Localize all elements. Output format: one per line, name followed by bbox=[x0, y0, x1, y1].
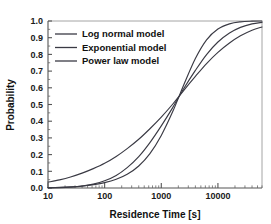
y-tick-label: 0.8 bbox=[30, 50, 43, 60]
legend-label-2: Exponential model bbox=[82, 42, 166, 53]
chart-figure: 0.00.10.20.30.40.50.60.70.80.91.0 101001… bbox=[0, 0, 271, 224]
x-tick-label: 10 bbox=[43, 191, 53, 201]
y-tick-label: 0.3 bbox=[30, 133, 43, 143]
legend-label-3: Power law model bbox=[82, 55, 159, 66]
y-tick-label: 0.0 bbox=[30, 183, 43, 193]
y-tick-label: 0.6 bbox=[30, 83, 43, 93]
y-tick-label: 0.7 bbox=[30, 66, 43, 76]
y-tick-label: 1.0 bbox=[30, 16, 43, 26]
y-axis-tick-labels: 0.00.10.20.30.40.50.60.70.80.91.0 bbox=[30, 16, 43, 193]
x-tick-label: 1000 bbox=[151, 191, 171, 201]
probability-vs-residence-time-chart: 0.00.10.20.30.40.50.60.70.80.91.0 101001… bbox=[0, 0, 271, 224]
legend-label-1: Log normal model bbox=[82, 28, 164, 39]
x-tick-label: 10000 bbox=[205, 191, 230, 201]
y-tick-label: 0.9 bbox=[30, 33, 43, 43]
y-tick-label: 0.1 bbox=[30, 167, 43, 177]
y-tick-label: 0.2 bbox=[30, 150, 43, 160]
x-tick-label: 100 bbox=[97, 191, 112, 201]
y-tick-label: 0.5 bbox=[30, 100, 43, 110]
y-axis-title: Probability bbox=[5, 79, 16, 131]
chart-legend: Log normal modelExponential modelPower l… bbox=[55, 28, 166, 66]
y-tick-label: 0.4 bbox=[30, 116, 43, 126]
x-axis-title: Residence Time [s] bbox=[110, 209, 201, 220]
